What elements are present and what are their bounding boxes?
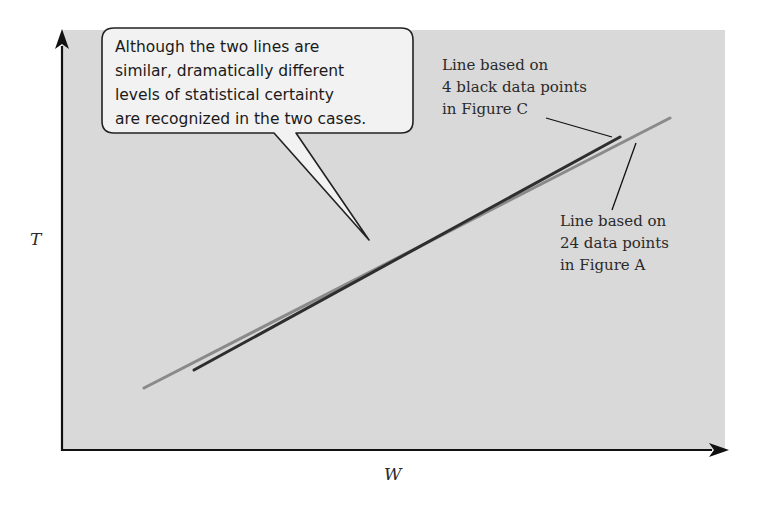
x-axis-label: W [384,464,403,484]
annotation-figure-a-line-3: in Figure A [560,256,646,274]
callout-line-1: Although the two lines are [115,38,319,56]
annotation-figure-c-line-3: in Figure C [442,100,528,118]
callout-line-2: similar, dramatically different [115,62,344,80]
annotation-figure-a-line-2: 24 data points [560,234,669,252]
regression-comparison-figure: T W Although the two lines are similar, … [0,0,763,506]
annotation-figure-c-line-2: 4 black data points [442,78,587,96]
callout-line-4: are recognized in the two cases. [115,110,366,128]
annotation-figure-a-line-1: Line based on [560,212,667,230]
y-axis-label: T [30,229,43,249]
annotation-figure-c-line-1: Line based on [442,56,549,74]
callout-line-3: levels of statistical certainty [115,86,334,104]
